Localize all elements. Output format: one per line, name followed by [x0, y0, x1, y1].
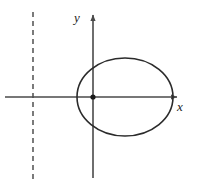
y-axis-label: y	[72, 10, 80, 25]
x-axis-label: x	[176, 99, 183, 114]
center-point-marker	[90, 94, 95, 99]
figure-container: y x	[0, 0, 203, 192]
conic-section-figure: y x	[0, 0, 203, 192]
